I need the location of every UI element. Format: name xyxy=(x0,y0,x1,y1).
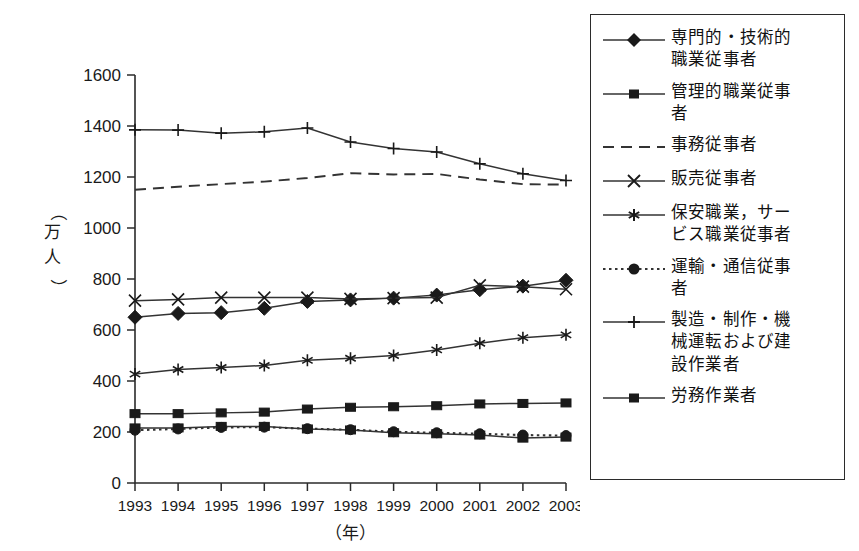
series-1 xyxy=(130,399,571,418)
marker-square xyxy=(432,402,442,410)
marker-square xyxy=(432,430,442,438)
marker-square xyxy=(475,400,485,408)
legend-item[interactable]: 事務従事者 xyxy=(599,134,834,159)
x-tick-label: 2001 xyxy=(463,497,497,514)
legend-marker-diamond-icon xyxy=(599,30,671,52)
legend-marker-square-icon xyxy=(599,388,671,410)
marker-square xyxy=(216,422,226,430)
legend-item[interactable]: 専門的・技術的 職業従事者 xyxy=(599,27,834,72)
marker-square xyxy=(518,399,528,407)
x-tick-label: 1994 xyxy=(161,497,196,514)
legend-marker-circle-icon xyxy=(599,259,671,281)
marker-square xyxy=(302,425,312,433)
y-tick-label: 400 xyxy=(93,372,121,391)
marker-square xyxy=(389,403,399,411)
series-4 xyxy=(130,329,571,380)
plot-area: 0200400600800100012001400160019931994199… xyxy=(0,0,580,551)
marker-square xyxy=(130,424,140,432)
chart-axes: 0200400600800100012001400160019931994199… xyxy=(83,66,580,514)
y-tick-label: 1200 xyxy=(83,168,121,187)
legend-item-label: 販売従事者 xyxy=(671,168,757,190)
legend-item-label: 管理的職業従事 者 xyxy=(671,81,791,126)
series-6 xyxy=(129,122,572,187)
y-tick-label: 0 xyxy=(112,474,121,493)
chart-page: 0200400600800100012001400160019931994199… xyxy=(0,0,859,551)
marker-plus xyxy=(258,126,270,138)
legend-item[interactable]: 運輸・通信従事 者 xyxy=(599,256,834,301)
marker-square xyxy=(346,426,356,434)
y-tick-label: 600 xyxy=(93,321,121,340)
chart-legend: 専門的・技術的 職業従事者管理的職業従事 者事務従事者販売従事者保安職業，サー … xyxy=(590,14,845,480)
marker-square xyxy=(302,405,312,413)
legend-marker-square-icon xyxy=(599,84,671,106)
y-tick-label: 1600 xyxy=(83,66,121,85)
marker-diamond xyxy=(171,306,185,320)
x-tick-label: 1997 xyxy=(290,497,324,514)
marker-square xyxy=(216,409,226,417)
legend-item-label: 専門的・技術的 職業従事者 xyxy=(671,27,791,72)
legend-item[interactable]: 労務作業者 xyxy=(599,385,834,410)
chart-series-group xyxy=(128,122,573,442)
marker-square xyxy=(259,408,269,416)
marker-plus xyxy=(474,158,486,170)
series-2 xyxy=(135,173,566,190)
marker-plus xyxy=(560,175,572,187)
x-axis-title: （年） xyxy=(325,524,376,543)
y-tick-label: 1400 xyxy=(83,117,121,136)
marker-square xyxy=(475,431,485,439)
marker-plus xyxy=(345,136,357,148)
x-tick-label: 1995 xyxy=(204,497,238,514)
x-tick-label: 1996 xyxy=(247,497,281,514)
x-tick-label: 1993 xyxy=(118,497,152,514)
marker-diamond xyxy=(430,288,444,302)
legend-marker-asterisk-icon xyxy=(599,205,671,227)
marker-square xyxy=(173,424,183,432)
x-tick-label: 2003 xyxy=(549,497,580,514)
x-tick-label: 1998 xyxy=(333,497,367,514)
legend-item[interactable]: 管理的職業従事 者 xyxy=(599,81,834,126)
legend-item[interactable]: 製造・制作・機 械運転および建 設作業者 xyxy=(599,309,834,376)
line-chart-svg: 0200400600800100012001400160019931994199… xyxy=(0,0,580,551)
series-path xyxy=(135,173,566,190)
marker-square xyxy=(389,429,399,437)
marker-square xyxy=(259,422,269,430)
x-tick-label: 2000 xyxy=(419,497,454,514)
y-axis-title-char: 人 xyxy=(44,248,61,267)
legend-item[interactable]: 保安職業，サー ビス職業従事者 xyxy=(599,202,834,247)
legend-item-label: 製造・制作・機 械運転および建 設作業者 xyxy=(671,309,791,376)
marker-square xyxy=(561,399,571,407)
legend-marker-none-icon xyxy=(599,137,671,159)
marker-plus xyxy=(431,146,443,158)
y-axis-title: （万人） xyxy=(44,204,68,296)
y-axis-title-char: 万 xyxy=(44,223,61,242)
legend-marker-cross-icon xyxy=(599,171,671,193)
marker-plus xyxy=(517,168,529,180)
legend-item-label: 運輸・通信従事 者 xyxy=(671,256,791,301)
x-tick-label: 1999 xyxy=(376,497,410,514)
marker-square xyxy=(561,433,571,441)
marker-plus xyxy=(388,142,400,154)
legend-item-label: 保安職業，サー ビス職業従事者 xyxy=(671,202,791,247)
y-tick-label: 1000 xyxy=(83,219,121,238)
marker-square xyxy=(130,410,140,418)
marker-square xyxy=(518,434,528,442)
marker-diamond xyxy=(214,306,228,320)
legend-marker-plus-icon xyxy=(599,312,671,334)
marker-plus xyxy=(215,127,227,139)
x-tick-label: 2002 xyxy=(506,497,540,514)
marker-plus xyxy=(172,124,184,136)
marker-square xyxy=(173,410,183,418)
y-tick-label: 800 xyxy=(93,270,121,289)
y-axis-title-char: ） xyxy=(48,279,67,296)
legend-item-label: 労務作業者 xyxy=(671,385,757,407)
marker-plus xyxy=(301,122,313,134)
legend-item[interactable]: 販売従事者 xyxy=(599,168,834,193)
y-axis-title-char: （ xyxy=(48,204,67,221)
legend-item-label: 事務従事者 xyxy=(671,134,757,156)
marker-diamond xyxy=(128,310,142,324)
y-tick-label: 200 xyxy=(93,423,121,442)
marker-square xyxy=(346,403,356,411)
